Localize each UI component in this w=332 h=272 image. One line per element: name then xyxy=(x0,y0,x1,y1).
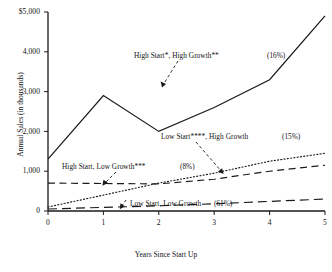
annotation-high-start-high-growth: High Start*, High Growth** xyxy=(134,51,219,60)
leader-low-high xyxy=(196,142,224,174)
y-tick-label-5000: $5,000 xyxy=(6,7,40,16)
x-tick-label-3: 3 xyxy=(206,218,222,227)
y-axis-title: Annual Sales (in thousands) xyxy=(16,55,25,175)
annotation-high-low-percent: (8%) xyxy=(180,162,195,171)
x-tick-label-5: 5 xyxy=(317,218,332,227)
annotation-high-start-low-growth: High Start, Low Growth*** xyxy=(62,162,146,171)
annotation-high-high-percent: (16%) xyxy=(267,51,285,60)
chart-figure: $5,000 4,000 3,000 2,000 1,000 0 0 1 2 3… xyxy=(0,0,332,272)
annotation-low-start-high-growth: Low Start****, High Growth xyxy=(161,132,248,141)
annotation-low-start-low-growth: Low Start, Low Growth xyxy=(130,199,201,208)
y-tick-label-0: 0 xyxy=(6,206,40,215)
annotation-low-high-percent: (15%) xyxy=(282,132,300,141)
x-tick-label-0: 0 xyxy=(40,218,56,227)
x-axis-title: Years Since Start Up xyxy=(0,250,332,259)
leader-low-low xyxy=(120,200,126,209)
leader-high-high xyxy=(161,61,178,88)
x-tick-label-2: 2 xyxy=(151,218,167,227)
x-tick-label-4: 4 xyxy=(262,218,278,227)
annotation-low-low-percent: (61%) xyxy=(214,199,232,208)
x-tick-label-1: 1 xyxy=(95,218,111,227)
